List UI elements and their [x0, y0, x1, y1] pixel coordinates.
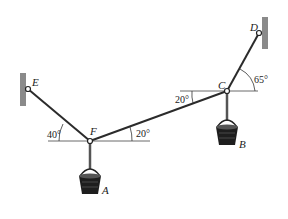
label-e: E — [31, 76, 39, 88]
label-d: D — [249, 21, 258, 33]
angle-label-ef: 40° — [47, 129, 61, 140]
label-b: B — [239, 138, 246, 150]
label-a: A — [101, 184, 109, 196]
cable-fc — [90, 91, 227, 141]
joint-e — [26, 87, 31, 92]
angle-arc-20-c — [192, 91, 193, 103]
wall-support-d — [262, 17, 268, 49]
cable-diagram: E F C D A B 40° 20° 20° 65° — [0, 0, 288, 219]
bucket-a — [79, 169, 101, 194]
angle-label-fc-f: 20° — [136, 128, 150, 139]
angle-arc-65 — [240, 69, 255, 91]
angle-label-cd: 65° — [254, 74, 268, 85]
label-c: C — [218, 79, 226, 91]
angle-label-fc-c: 20° — [175, 94, 189, 105]
angle-arc-20-f — [130, 127, 132, 141]
bucket-b — [216, 120, 238, 145]
label-f: F — [89, 125, 97, 137]
joint-f — [88, 139, 93, 144]
